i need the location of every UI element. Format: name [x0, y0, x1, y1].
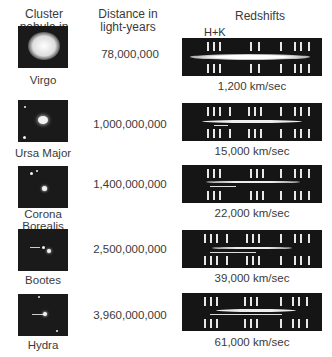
galaxy-image-hydra — [18, 294, 68, 336]
spectrum-hydra — [182, 293, 322, 331]
spectrum-ursa-major — [182, 103, 322, 141]
cluster-name: Ursa Major — [6, 147, 80, 159]
velocity-value: 1,200 km/sec — [182, 80, 322, 92]
galaxy-image-corona-borealis — [18, 166, 68, 208]
velocity-value: 61,000 km/sec — [182, 336, 322, 348]
distance-value: 1,400,000,000 — [92, 178, 168, 190]
cluster-name: Hydra — [6, 339, 80, 351]
velocity-value: 22,000 km/sec — [182, 207, 322, 219]
cluster-name: Virgo — [6, 74, 80, 86]
hk-label: H+K — [204, 26, 226, 38]
distance-value: 78,000,000 — [92, 48, 168, 60]
distance-value: 1,000,000,000 — [92, 118, 168, 130]
cluster-name: Bootes — [6, 274, 80, 286]
galaxy-image-bootes — [18, 229, 68, 271]
header-distance: Distance in light-years — [92, 8, 164, 34]
distance-value: 2,500,000,000 — [92, 243, 168, 255]
velocity-value: 39,000 km/sec — [182, 272, 322, 284]
spectrum-virgo — [182, 38, 322, 76]
galaxy-image-virgo — [18, 26, 68, 68]
spectrum-corona-borealis — [182, 165, 322, 203]
velocity-value: 15,000 km/sec — [182, 145, 322, 157]
spectrum-bootes — [182, 230, 322, 268]
galaxy-image-ursa-major — [18, 100, 68, 142]
header-redshifts: Redshifts — [210, 10, 310, 23]
distance-value: 3,960,000,000 — [92, 309, 168, 321]
